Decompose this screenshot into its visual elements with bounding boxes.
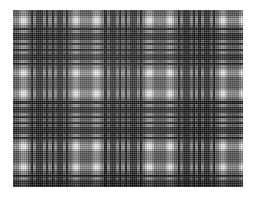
weft-band — [13, 187, 243, 188]
weft-stripes — [13, 10, 243, 187]
image-canvas — [0, 0, 255, 200]
plaid-fabric-swatch — [13, 10, 243, 187]
